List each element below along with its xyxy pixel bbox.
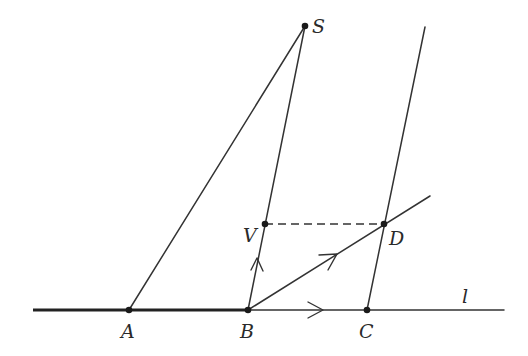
point-s bbox=[302, 23, 309, 30]
point-b bbox=[245, 307, 252, 314]
segment-sb bbox=[248, 26, 305, 310]
label-a: A bbox=[119, 320, 135, 342]
ray-bd bbox=[248, 196, 430, 310]
label-c: C bbox=[359, 320, 374, 342]
point-d bbox=[381, 221, 388, 228]
point-c bbox=[364, 307, 371, 314]
label-d: D bbox=[388, 227, 404, 249]
label-v: V bbox=[243, 224, 259, 246]
point-v bbox=[262, 221, 269, 228]
geometry-diagram: S V D A B C l bbox=[0, 0, 528, 356]
label-b: B bbox=[239, 320, 254, 342]
label-s: S bbox=[312, 15, 325, 37]
segment-sa bbox=[129, 26, 305, 310]
label-line-l: l bbox=[462, 285, 468, 307]
point-a bbox=[126, 307, 133, 314]
line-through-c-d bbox=[367, 27, 425, 310]
